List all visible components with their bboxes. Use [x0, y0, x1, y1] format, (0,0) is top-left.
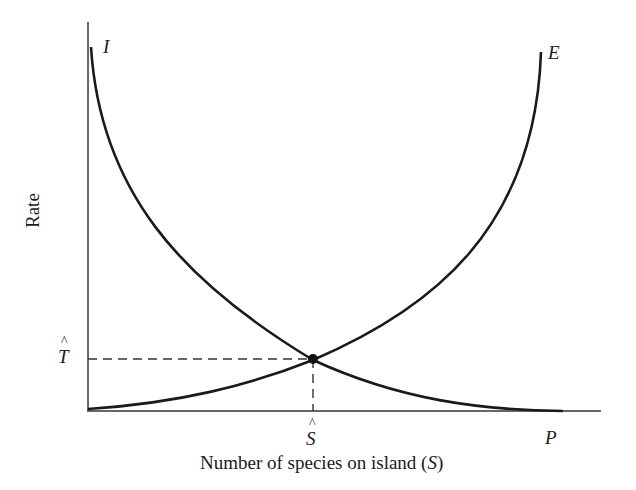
- equilibrium-point: [308, 354, 318, 364]
- immigration-label: I: [103, 36, 109, 58]
- x-axis-title-prefix: Number of species on island (: [200, 452, 427, 473]
- p-label: P: [545, 427, 557, 449]
- x-axis-title-var: S: [427, 452, 437, 473]
- extinction-label: E: [548, 42, 560, 64]
- s-hat-symbol: S: [306, 428, 316, 450]
- x-axis-title: Number of species on island (S): [200, 452, 443, 474]
- t-hat-label: T: [58, 346, 69, 368]
- immigration-curve: [91, 47, 563, 411]
- s-hat-label: S: [306, 428, 316, 450]
- island-biogeography-plot: [0, 0, 636, 490]
- t-hat-symbol: T: [58, 346, 69, 368]
- x-axis-title-suffix: ): [437, 452, 443, 473]
- y-axis-title: Rate: [22, 193, 44, 228]
